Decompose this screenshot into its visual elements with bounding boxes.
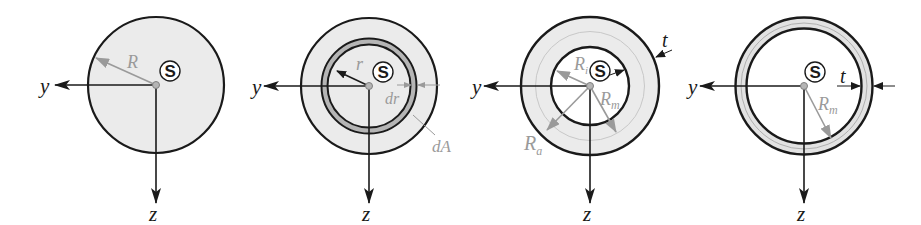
label-centroid-S: S [165, 62, 176, 81]
cross-sections-diagram: R y z S r dr dA y z S Ri R [0, 0, 921, 224]
label-R: R [126, 52, 138, 72]
panel-solid-circle: R y z S [38, 17, 224, 224]
panel-thin-tube: Rm t y z S [686, 18, 895, 225]
label-z-axis: z [361, 202, 370, 224]
label-centroid-S: S [810, 63, 821, 82]
label-y-axis: y [38, 74, 50, 98]
label-z-axis: z [582, 202, 591, 224]
label-y-axis: y [686, 75, 698, 99]
label-z-axis: z [148, 202, 157, 224]
label-y-axis: y [250, 75, 262, 99]
label-t: t [662, 29, 668, 51]
label-dA: dA [432, 137, 452, 156]
origin-dot [153, 82, 160, 89]
label-t: t [840, 65, 846, 87]
label-z-axis: z [796, 202, 805, 224]
panel-ring-element: r dr dA y z S [250, 18, 452, 224]
label-Rm: Rm [817, 94, 838, 117]
label-centroid-S: S [595, 62, 606, 81]
label-y-axis: y [470, 75, 482, 99]
label-dr: dr [385, 90, 400, 107]
label-centroid-S: S [378, 63, 389, 82]
origin-dot [366, 83, 373, 90]
thickness-arrow-outer [656, 50, 672, 57]
origin-dot [801, 83, 808, 90]
panel-thick-tube: Ri Ra Rm t y z S [470, 17, 672, 224]
label-Ra: Ra [523, 132, 542, 158]
label-r: r [356, 54, 364, 74]
origin-dot [587, 83, 594, 90]
